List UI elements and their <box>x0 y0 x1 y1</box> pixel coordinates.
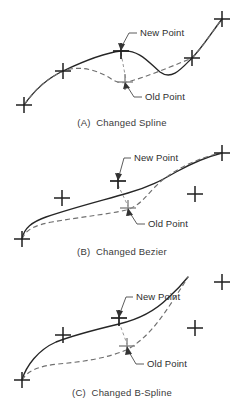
panel-changed-bezier: New Point Old Point (B) Changed Bezier <box>0 136 244 270</box>
control-point-marker <box>187 320 203 336</box>
panel-c-caption: (C) Changed B-Spline <box>0 387 244 398</box>
old-point-label: Old Point <box>147 358 187 369</box>
spline-comparison-figure: New Point Old Point (A) Changed Spline <box>0 0 244 413</box>
panel-a-caption: (A) Changed Spline <box>0 117 244 128</box>
control-point-marker <box>55 63 71 79</box>
control-point-marker <box>14 231 30 247</box>
new-point-arrowhead <box>118 43 125 51</box>
control-point-markers <box>16 11 230 113</box>
control-point-marker <box>54 190 70 206</box>
control-point-marker <box>14 372 30 388</box>
control-point-marker <box>214 11 230 27</box>
point-tether-line <box>119 322 127 344</box>
panel-changed-bspline: New Point Old Point (C) Changed B-Spline <box>0 270 244 413</box>
control-point-marker <box>16 97 32 113</box>
panel-a-graphic: New Point Old Point <box>0 0 244 136</box>
new-point-label: New Point <box>134 152 178 163</box>
new-point-label: New Point <box>136 291 180 302</box>
control-point-marker <box>187 186 203 202</box>
new-point-leader-line <box>120 297 133 313</box>
control-point-markers <box>14 274 230 388</box>
panel-b-caption: (B) Changed Bezier <box>0 246 244 257</box>
control-point-marker <box>214 145 230 161</box>
control-point-marker <box>55 327 71 343</box>
old-point-label: Old Point <box>148 218 188 229</box>
new-point-label: New Point <box>140 27 184 38</box>
control-point-marker <box>214 274 230 290</box>
new-point-arrowhead <box>116 310 123 318</box>
old-point-label: Old Point <box>145 91 185 102</box>
new-point-leader-line <box>119 158 131 176</box>
old-point-arrowhead <box>126 208 133 216</box>
panel-changed-spline: New Point Old Point (A) Changed Spline <box>0 0 244 136</box>
new-point-arrowhead <box>115 173 122 181</box>
